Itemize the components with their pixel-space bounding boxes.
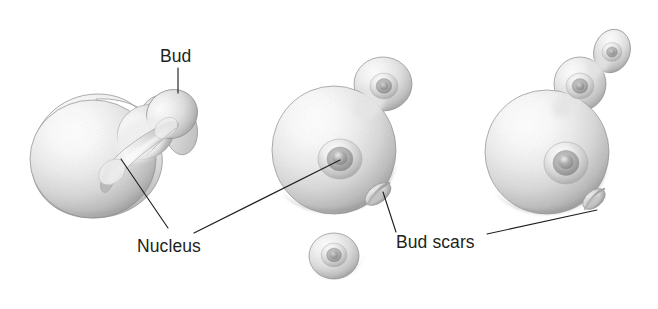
cell-middle [272, 57, 412, 214]
cell-middle-nucleus [318, 139, 362, 179]
bud-scars-leader-line-middle [383, 192, 396, 232]
cell-small-daughter [309, 233, 364, 279]
cell-right-nucleus [544, 142, 588, 184]
small-nucleus-core [330, 251, 338, 259]
cell-middle-bud-nucleus [370, 73, 398, 99]
right-nucleus-core [559, 155, 574, 169]
label-bud: Bud [160, 46, 191, 66]
cell-right-bud-large-nucleus [566, 73, 594, 99]
cell-left-budding [30, 80, 207, 218]
nucleus-core-highlight [335, 153, 341, 158]
right-nucleus-core-highlight [561, 157, 567, 162]
figure-canvas: Bud Nucleus Bud scars [0, 0, 658, 309]
cell-right [485, 25, 636, 214]
cell-small-nucleus [321, 243, 347, 267]
label-nucleus: Nucleus [137, 236, 201, 256]
label-bud-scars: Bud scars [396, 232, 475, 252]
right-bud1-core [576, 82, 584, 90]
cell-right-bud-small-nucleus [602, 43, 622, 62]
right-bud2-core [609, 49, 615, 55]
yeast-budding-figure: Bud Nucleus Bud scars [0, 0, 658, 309]
bud-nucleus-core [380, 82, 388, 90]
